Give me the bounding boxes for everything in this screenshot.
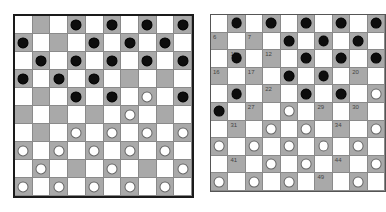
board-square[interactable] [298,15,315,33]
board-square[interactable] [15,142,33,160]
board-square[interactable] [86,34,104,52]
board-square[interactable]: 6 [211,33,228,51]
board-square[interactable] [263,15,280,33]
black-piece-icon[interactable] [124,37,135,48]
board-square[interactable]: 27 [246,103,263,121]
board-square[interactable] [15,34,33,52]
board-square[interactable]: 7 [246,33,263,51]
black-piece-icon[interactable] [318,71,329,82]
board-square[interactable] [139,16,157,34]
board-square[interactable] [315,33,332,51]
board-square[interactable]: 16 [211,68,228,86]
black-piece-icon[interactable] [71,19,82,30]
board-square[interactable] [86,70,104,88]
board-square[interactable]: 17 [246,68,263,86]
board-square[interactable] [228,68,245,86]
board-square[interactable] [157,178,175,196]
board-square[interactable] [228,33,245,51]
white-piece-icon[interactable] [53,181,64,192]
white-piece-icon[interactable] [71,127,82,138]
board-square[interactable] [121,34,139,52]
board-square[interactable] [263,33,280,51]
board-square[interactable]: 30 [350,103,367,121]
black-piece-icon[interactable] [301,18,312,29]
white-piece-icon[interactable] [249,176,260,187]
board-square[interactable] [104,106,122,124]
board-square[interactable] [68,106,86,124]
board-square[interactable] [333,85,350,103]
white-piece-icon[interactable] [370,123,381,134]
black-piece-icon[interactable] [106,19,117,30]
white-piece-icon[interactable] [301,159,312,170]
board-square[interactable] [15,160,33,178]
white-piece-icon[interactable] [301,123,312,134]
board-square[interactable] [228,15,245,33]
board-square[interactable] [350,15,367,33]
board-square[interactable] [68,178,86,196]
board-square[interactable] [298,85,315,103]
board-square[interactable] [104,52,122,70]
board-square[interactable] [104,124,122,142]
board-square[interactable] [104,178,122,196]
black-piece-icon[interactable] [353,35,364,46]
board-square[interactable] [263,68,280,86]
board-square[interactable] [246,50,263,68]
board-square[interactable] [86,16,104,34]
board-square[interactable] [121,124,139,142]
board-square[interactable]: 12 [263,50,280,68]
white-piece-icon[interactable] [249,141,260,152]
white-piece-icon[interactable] [214,176,225,187]
board-square[interactable] [368,68,385,86]
black-piece-icon[interactable] [231,88,242,99]
board-square[interactable] [315,121,332,139]
board-square[interactable]: 11 [228,50,245,68]
black-piece-icon[interactable] [266,18,277,29]
board-square[interactable] [139,34,157,52]
board-square[interactable] [139,124,157,142]
board-square[interactable] [157,160,175,178]
board-square[interactable] [298,173,315,191]
board-square[interactable] [121,52,139,70]
board-square[interactable] [86,124,104,142]
board-square[interactable] [15,106,33,124]
board-square[interactable] [281,103,298,121]
board-square[interactable] [15,178,33,196]
board-square[interactable] [50,70,68,88]
white-piece-icon[interactable] [159,145,170,156]
board-square[interactable] [211,85,228,103]
board-square[interactable] [211,103,228,121]
board-square[interactable] [246,156,263,174]
white-piece-icon[interactable] [353,141,364,152]
board-square[interactable] [350,138,367,156]
board-square[interactable] [121,106,139,124]
board-square[interactable] [211,15,228,33]
board-square[interactable] [33,16,51,34]
black-piece-icon[interactable] [370,18,381,29]
board-square[interactable] [174,52,192,70]
board-square[interactable] [228,103,245,121]
black-piece-icon[interactable] [231,53,242,64]
board-square[interactable] [139,142,157,160]
white-piece-icon[interactable] [283,176,294,187]
board-square[interactable] [281,156,298,174]
board-square[interactable] [315,15,332,33]
board-square[interactable] [50,88,68,106]
board-square[interactable]: 49 [315,173,332,191]
black-piece-icon[interactable] [177,55,188,66]
board-square[interactable] [174,178,192,196]
board-square[interactable] [121,160,139,178]
board-square[interactable] [368,15,385,33]
board-square[interactable] [368,121,385,139]
black-piece-icon[interactable] [336,18,347,29]
board-square[interactable] [298,33,315,51]
board-square[interactable] [157,16,175,34]
board-square[interactable] [298,138,315,156]
board-square[interactable] [281,138,298,156]
white-piece-icon[interactable] [177,163,188,174]
board-square[interactable] [263,103,280,121]
black-piece-icon[interactable] [283,35,294,46]
board-square[interactable] [157,124,175,142]
board-square[interactable] [333,138,350,156]
board-square[interactable] [68,142,86,160]
board-square[interactable] [50,160,68,178]
